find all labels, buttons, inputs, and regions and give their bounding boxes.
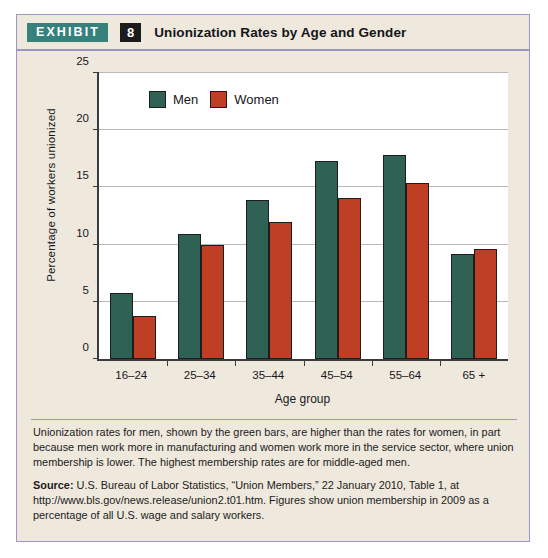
- bar-men[interactable]: [178, 234, 201, 359]
- bar-women[interactable]: [406, 183, 429, 359]
- y-axis-tick-label: 0: [83, 341, 89, 353]
- bars-layer: [99, 73, 508, 359]
- y-axis-tick-label: 10: [76, 227, 89, 239]
- note-body: Unionization rates for men, shown by the…: [33, 425, 515, 471]
- x-axis-tick-mark: [167, 359, 168, 366]
- notes-block: Unionization rates for men, shown by the…: [33, 425, 515, 523]
- chart-region: Percentage of workers unionized 05101520…: [17, 51, 529, 414]
- bar-men[interactable]: [383, 155, 406, 359]
- x-axis-tick-mark: [235, 359, 236, 366]
- exhibit-number-badge: 8: [120, 23, 141, 42]
- x-axis-tick-mark: [372, 359, 373, 366]
- x-axis-label: 35–44: [234, 369, 303, 381]
- bar-women[interactable]: [133, 316, 156, 359]
- bar-women[interactable]: [201, 245, 224, 359]
- note-source: Source: U.S. Bureau of Labor Statistics,…: [33, 478, 515, 524]
- bar-men[interactable]: [110, 293, 133, 359]
- bar-group: [440, 73, 508, 359]
- y-axis-tick-label: 20: [76, 112, 89, 124]
- y-axis-tick-label: 5: [83, 284, 89, 296]
- x-axis-label: 16–24: [97, 369, 166, 381]
- y-axis-title: Percentage of workers unionized: [45, 85, 57, 305]
- x-axis-label: 45–54: [303, 369, 372, 381]
- x-axis-title: Age group: [97, 392, 508, 406]
- exhibit-header: EXHIBIT 8 Unionization Rates by Age and …: [17, 15, 529, 49]
- exhibit-tag: EXHIBIT: [27, 23, 108, 42]
- y-axis-tick-label: 25: [76, 55, 89, 67]
- y-axis-tick-label: 15: [76, 169, 89, 181]
- note-source-text: U.S. Bureau of Labor Statistics, “Union …: [33, 479, 489, 521]
- x-axis-labels: 16–2425–3435–4445–5455–6465 +: [97, 369, 508, 381]
- x-axis-label: 65 +: [440, 369, 509, 381]
- bar-women[interactable]: [474, 249, 497, 359]
- bar-women[interactable]: [338, 198, 361, 359]
- plot-area: 0510152025 Men Women: [97, 73, 508, 361]
- x-axis-tick-mark: [304, 359, 305, 366]
- exhibit-card: EXHIBIT 8 Unionization Rates by Age and …: [16, 14, 530, 542]
- bar-men[interactable]: [315, 161, 338, 359]
- bar-group: [304, 73, 372, 359]
- bar-women[interactable]: [269, 222, 292, 359]
- x-axis-tick-mark: [440, 359, 441, 366]
- note-source-label: Source:: [33, 479, 74, 491]
- bar-group: [99, 73, 167, 359]
- bar-group: [235, 73, 303, 359]
- bar-men[interactable]: [451, 254, 474, 359]
- x-axis-label: 55–64: [371, 369, 440, 381]
- bar-group: [167, 73, 235, 359]
- bar-group: [372, 73, 440, 359]
- x-axis-label: 25–34: [166, 369, 235, 381]
- page-title: Unionization Rates by Age and Gender: [154, 25, 406, 40]
- bar-men[interactable]: [246, 200, 269, 359]
- notes-divider: [31, 419, 517, 420]
